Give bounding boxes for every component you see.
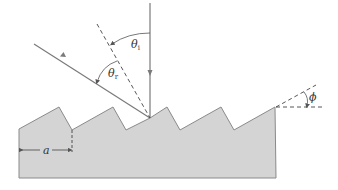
incident-arrow-icon bbox=[148, 70, 153, 76]
phi-label: ϕ bbox=[309, 91, 317, 104]
grating-diagram: θi θr a ϕ bbox=[0, 0, 338, 190]
sawtooth-grating bbox=[19, 107, 276, 178]
reflected-arrow-icon bbox=[60, 52, 66, 57]
reflected-ray bbox=[34, 44, 150, 118]
theta-r-label: θr bbox=[108, 67, 119, 81]
phi-arc bbox=[304, 92, 308, 106]
theta-i-label: θi bbox=[131, 38, 141, 52]
spacing-a-label: a bbox=[43, 144, 50, 157]
